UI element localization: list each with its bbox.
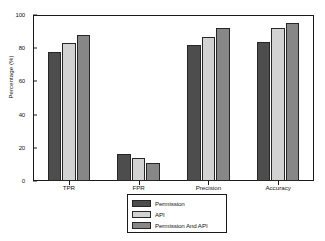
legend-item[interactable]: API: [132, 209, 222, 219]
bar: [286, 23, 300, 181]
y-axis-tick-mark: [33, 181, 37, 182]
y-axis-tick-label: 40: [19, 112, 25, 118]
bar: [77, 35, 91, 181]
y-axis-tick-labels: 020406080100: [0, 15, 29, 181]
legend-swatch-icon: [132, 222, 151, 229]
bar: [62, 43, 76, 181]
bar: [132, 158, 146, 181]
y-axis-tick-label: 60: [19, 78, 25, 84]
legend-swatch-icon: [132, 211, 151, 218]
legend-swatch-icon: [132, 200, 151, 207]
chart-legend: PermissionAPIPermission And API: [127, 194, 227, 233]
y-axis-tick-label: 100: [16, 12, 25, 18]
bar: [216, 28, 230, 181]
bar: [202, 37, 216, 181]
bar: [48, 52, 62, 181]
legend-item-label: API: [155, 211, 165, 218]
x-axis-tick-label: Precision: [196, 184, 221, 191]
y-axis-tick-label: 80: [19, 45, 25, 51]
x-axis-tick-label: Accuracy: [265, 184, 290, 191]
y-axis-tick-label: 0: [22, 178, 25, 184]
y-axis-tick-mark: [33, 81, 37, 82]
x-axis-tick-label: TPR: [63, 184, 75, 191]
figure-canvas: Percentage (%) 020406080100 PermissionAP…: [0, 0, 325, 241]
y-axis-tick-mark: [33, 114, 37, 115]
y-axis-tick-mark: [33, 48, 37, 49]
y-axis-tick-label: 20: [19, 145, 25, 151]
bar: [271, 28, 285, 181]
bar: [187, 45, 201, 181]
bar: [257, 42, 271, 181]
legend-item-label: Permission And API: [155, 222, 208, 229]
legend-item[interactable]: Permission: [132, 198, 222, 208]
bar: [117, 154, 131, 181]
x-axis-tick-label: FPR: [132, 184, 144, 191]
legend-item-label: Permission: [155, 200, 185, 207]
bar: [146, 163, 160, 181]
legend-item[interactable]: Permission And API: [132, 220, 222, 230]
y-axis-tick-mark: [33, 147, 37, 148]
y-axis-tick-mark: [33, 15, 37, 16]
